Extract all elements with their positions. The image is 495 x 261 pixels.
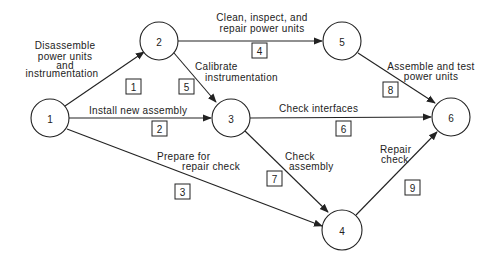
node-label: 4 [339,226,345,237]
label-line: Check interfaces [279,103,358,114]
label-line: Clean, inspect, and [216,12,307,23]
activity-label-1: Disassemble power units and instrumentat… [26,40,99,79]
activity-number: 6 [341,124,347,135]
label-line: instrumentation [205,72,278,83]
activity-label-3: Prepare for repair check [157,151,241,172]
label-line: assembly [289,161,334,172]
node-6: 6 [432,98,470,136]
activity-number: 3 [180,187,186,198]
edge-3-6 [250,117,431,118]
node-2: 2 [140,22,178,60]
node-label: 2 [156,37,162,48]
label-line: instrumentation [26,68,99,79]
node-label: 5 [339,37,345,48]
activity-label-6: Check interfaces [279,103,358,114]
activity-box-3: 3 [175,184,190,199]
activity-box-4: 4 [252,43,267,58]
activity-label-2: Install new assembly [89,105,187,116]
activity-number: 8 [388,85,394,96]
node-label: 6 [448,113,454,124]
activity-label-7: Check assembly [285,151,334,172]
node-3: 3 [212,99,250,137]
activity-box-6: 6 [336,121,351,136]
node-1: 1 [31,99,69,137]
activity-label-9: Repair check [380,144,412,165]
activity-box-1: 1 [126,79,141,94]
activity-box-5: 5 [179,79,194,94]
activity-number: 2 [157,124,163,135]
network-diagram: 1 2 3 5 6 4 1 2 3 4 5 6 7 8 9 Disassembl… [0,0,495,261]
activity-number: 9 [410,183,416,194]
label-line: check [381,154,409,165]
activity-number: 1 [131,82,137,93]
label-line: Disassemble [35,40,96,51]
node-4: 4 [322,210,362,250]
node-label: 1 [47,114,53,125]
activity-number: 4 [257,46,263,57]
activity-box-7: 7 [267,171,282,186]
diagram-svg: 1 2 3 5 6 4 1 2 3 4 5 6 7 8 9 Disassembl… [0,0,495,261]
label-line: repair power units [220,23,305,34]
activity-label-5: Calibrate instrumentation [195,61,278,83]
label-line: Install new assembly [89,105,187,116]
activity-box-9: 9 [405,180,420,195]
edge-1-4 [67,129,322,226]
activity-box-2: 2 [152,121,167,136]
activity-number: 5 [184,82,190,93]
label-line: Calibrate [195,61,238,72]
node-5: 5 [323,22,361,60]
label-line: repair check [182,161,241,172]
label-line: power units [404,71,458,82]
activity-label-8: Assemble and test power units [387,61,474,82]
activity-number: 7 [272,174,278,185]
node-label: 3 [228,114,234,125]
activity-box-8: 8 [383,82,398,97]
activity-label-4: Clean, inspect, and repair power units [216,12,307,34]
